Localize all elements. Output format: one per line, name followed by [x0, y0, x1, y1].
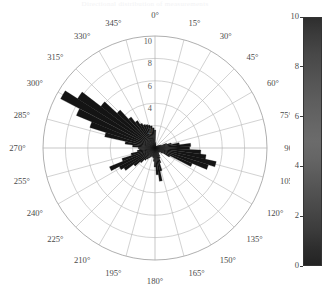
colorbar-tick-value: 8 — [295, 61, 299, 71]
svg-text:75°: 75° — [280, 110, 290, 120]
page-title: Directional distribution of measurements — [0, 0, 290, 8]
svg-text:225°: 225° — [47, 234, 64, 244]
svg-text:180°: 180° — [147, 276, 164, 286]
polar-bars — [61, 91, 217, 181]
svg-text:300°: 300° — [27, 78, 44, 88]
colorbar-tick-value: 10 — [290, 11, 299, 21]
radial-tick-labels: 246810 — [144, 37, 153, 136]
svg-text:315°: 315° — [47, 52, 64, 62]
svg-text:330°: 330° — [74, 31, 91, 41]
svg-text:10: 10 — [144, 37, 152, 46]
svg-text:0°: 0° — [151, 10, 159, 20]
svg-text:15°: 15° — [188, 18, 201, 28]
svg-text:2: 2 — [148, 127, 152, 136]
svg-text:210°: 210° — [74, 255, 91, 265]
colorbar: 1086420 — [303, 17, 322, 266]
svg-text:285°: 285° — [14, 110, 31, 120]
svg-text:8: 8 — [148, 59, 152, 68]
colorbar-tick-value: 2 — [295, 210, 299, 220]
svg-text:105°: 105° — [280, 176, 290, 186]
svg-text:135°: 135° — [246, 234, 263, 244]
polar-axes-svg: 246810 0°15°30°45°60°75°90°105°120°135°1… — [0, 8, 290, 287]
colorbar-tick-mark — [300, 66, 303, 67]
svg-text:195°: 195° — [105, 268, 122, 278]
svg-text:90°: 90° — [284, 143, 290, 153]
svg-text:255°: 255° — [14, 176, 31, 186]
colorbar-tick-mark — [300, 116, 303, 117]
colorbar-tick-mark — [300, 216, 303, 217]
colorbar-tick-value: 0 — [295, 260, 299, 270]
polar-rose-figure: Directional distribution of measurements… — [0, 0, 334, 287]
svg-text:120°: 120° — [267, 208, 284, 218]
colorbar-tick-mark — [300, 166, 303, 167]
svg-text:60°: 60° — [267, 78, 280, 88]
colorbar-gradient — [303, 17, 322, 266]
svg-text:30°: 30° — [220, 31, 233, 41]
svg-text:345°: 345° — [105, 18, 122, 28]
colorbar-tick-mark — [300, 17, 303, 18]
svg-text:4: 4 — [148, 104, 153, 113]
colorbar-tick-mark — [300, 266, 303, 267]
svg-text:6: 6 — [148, 82, 152, 91]
polar-plot-region: 246810 0°15°30°45°60°75°90°105°120°135°1… — [0, 8, 290, 287]
svg-text:165°: 165° — [188, 268, 205, 278]
svg-text:240°: 240° — [27, 208, 44, 218]
colorbar-tick-value: 4 — [295, 160, 299, 170]
svg-text:150°: 150° — [220, 255, 237, 265]
svg-text:270°: 270° — [9, 143, 26, 153]
colorbar-tick-value: 6 — [295, 111, 299, 121]
svg-text:45°: 45° — [246, 52, 259, 62]
